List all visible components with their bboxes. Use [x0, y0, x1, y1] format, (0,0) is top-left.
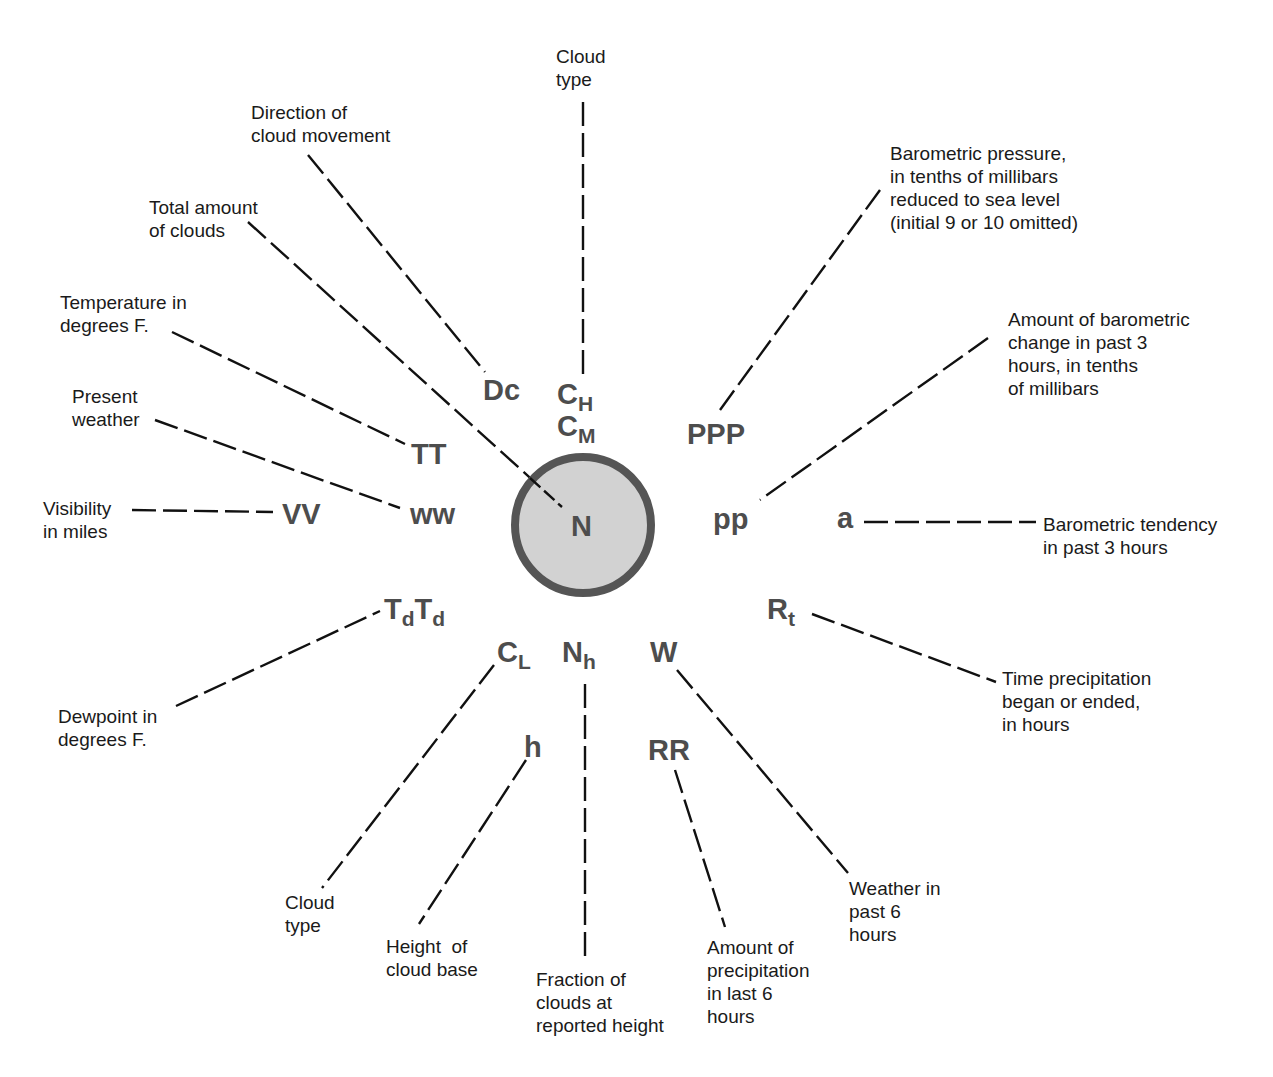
symbol-cm-main: C	[557, 410, 578, 442]
leader-time-precip	[812, 614, 996, 682]
leader-present-weather	[155, 420, 400, 508]
symbol-td2-sub: d	[432, 607, 445, 630]
symbol-w: W	[650, 636, 677, 668]
leader-dewpoint	[176, 611, 380, 706]
label-fraction-clouds: Fraction of clouds at reported height	[536, 968, 664, 1037]
leader-total-clouds	[248, 222, 560, 505]
label-cloud-type-low: Cloud type	[285, 891, 335, 937]
symbol-rt: Rt	[767, 593, 795, 625]
symbol-cl-sub: L	[518, 650, 531, 673]
leader-direction-cloud	[308, 155, 485, 372]
label-total-amount-clouds: Total amount of clouds	[149, 196, 258, 242]
leader-pressure	[720, 190, 880, 410]
leader-cloud-type-low	[322, 665, 494, 888]
symbol-tt: TT	[411, 438, 446, 470]
symbol-td1-main: T	[384, 593, 402, 625]
leader-precip-amount	[675, 770, 725, 927]
label-barometric-change: Amount of barometric change in past 3 ho…	[1008, 308, 1190, 400]
symbol-nh-main: N	[562, 636, 583, 668]
symbol-h: h	[524, 731, 542, 763]
symbol-ch: CH	[557, 378, 593, 410]
symbol-td1-sub: d	[402, 607, 415, 630]
symbol-rt-sub: t	[788, 607, 795, 630]
symbol-dc: Dc	[483, 374, 520, 406]
symbol-cl: CL	[497, 636, 531, 668]
symbol-ch-main: C	[557, 378, 578, 410]
leader-visibility	[132, 510, 273, 512]
label-time-precipitation: Time precipitation began or ended, in ho…	[1002, 667, 1151, 736]
label-barometric-pressure: Barometric pressure, in tenths of millib…	[890, 142, 1078, 234]
leader-temperature	[172, 332, 405, 444]
label-height-cloud-base: Height of cloud base	[386, 935, 478, 981]
label-barometric-tendency: Barometric tendency in past 3 hours	[1043, 513, 1217, 559]
symbol-nh: Nh	[562, 636, 596, 668]
symbol-cm-sub: M	[578, 424, 596, 447]
label-present-weather: Present weather	[72, 385, 140, 431]
leader-baro-change	[760, 338, 988, 500]
symbol-n-center: N	[571, 510, 592, 542]
symbol-nh-sub: h	[583, 650, 596, 673]
label-dewpoint: Dewpoint in degrees F.	[58, 705, 157, 751]
label-cloud-type-high: Cloud type	[556, 45, 606, 91]
label-weather-past: Weather in past 6 hours	[849, 877, 941, 946]
symbol-rr: RR	[648, 734, 690, 766]
symbol-cl-main: C	[497, 636, 518, 668]
symbol-a: a	[837, 502, 853, 534]
symbol-ppp: PPP	[687, 418, 745, 450]
leader-weather-past	[677, 670, 848, 873]
symbol-vv: VV	[282, 498, 321, 530]
symbol-rt-main: R	[767, 593, 788, 625]
label-visibility: Visibility in miles	[43, 497, 111, 543]
symbol-cm: CM	[557, 410, 595, 442]
symbol-pp: pp	[713, 503, 748, 535]
symbol-td2-main: T	[415, 593, 433, 625]
symbol-ww: ww	[410, 498, 455, 530]
symbol-tdtd: TdTd	[384, 593, 445, 625]
label-temperature: Temperature in degrees F.	[60, 291, 187, 337]
label-direction-cloud-movement: Direction of cloud movement	[251, 101, 390, 147]
leader-height	[419, 760, 526, 924]
label-precipitation-amount: Amount of precipitation in last 6 hours	[707, 936, 809, 1028]
